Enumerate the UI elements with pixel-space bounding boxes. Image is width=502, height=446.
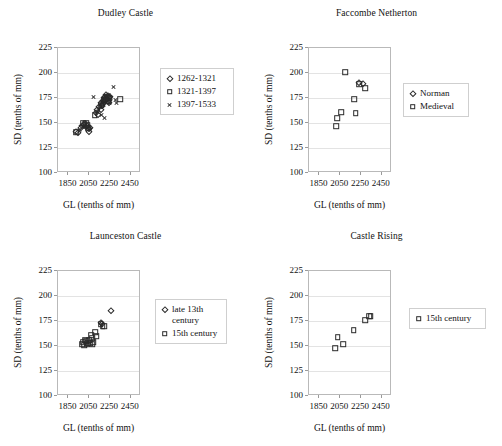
gridline — [58, 321, 139, 322]
data-point — [85, 125, 93, 133]
data-point — [351, 327, 357, 333]
x-axis-title: GL (tenths of mm) — [27, 200, 170, 210]
data-point — [99, 100, 107, 108]
data-point — [87, 340, 93, 346]
data-point — [106, 99, 114, 107]
gridline — [309, 148, 390, 149]
data-point — [101, 103, 106, 108]
x-axis-title: GL (tenths of mm) — [27, 423, 170, 433]
data-point — [101, 323, 107, 329]
data-point — [107, 101, 112, 106]
y-axis-tick-label: 225 — [39, 266, 53, 275]
y-axis-tick-label: 125 — [290, 366, 304, 375]
gridline — [309, 346, 390, 347]
data-point — [100, 101, 105, 106]
square-marker-icon — [414, 313, 423, 324]
data-point — [80, 125, 85, 130]
legend-item-label: late 13th century — [172, 304, 203, 326]
legend-item[interactable]: 15th century — [160, 328, 221, 339]
data-point — [334, 115, 340, 121]
chart-title: Faccombe Netherton — [251, 8, 502, 18]
data-point — [74, 129, 80, 135]
data-point — [98, 102, 104, 108]
y-axis-tick-label: 125 — [39, 366, 53, 375]
y-axis-tick-mark — [54, 295, 57, 296]
data-point — [82, 123, 90, 131]
y-axis-tick-mark — [305, 147, 308, 148]
y-axis-tick-label: 125 — [39, 143, 53, 152]
y-axis-tick-mark — [305, 345, 308, 346]
y-axis-tick-mark — [305, 295, 308, 296]
chart-legend: 15th century — [409, 308, 486, 329]
y-axis-tick-label: 150 — [39, 118, 53, 127]
diamond-marker-icon — [160, 304, 169, 315]
data-point — [93, 106, 101, 114]
gridline — [309, 296, 390, 297]
data-point — [98, 102, 106, 110]
x-axis-tick-mark — [318, 172, 319, 175]
y-axis-tick-label: 225 — [39, 43, 53, 52]
diamond-marker-icon — [408, 88, 417, 99]
legend-item-label: 1397-1533 — [177, 99, 216, 110]
legend-item-label: 1321-1397 — [177, 86, 216, 97]
data-point — [111, 85, 116, 90]
data-point — [106, 93, 111, 98]
scatter-plot-figure: Dudley Castle100125150175200225185020502… — [0, 0, 502, 446]
y-axis-tick-mark — [54, 72, 57, 73]
chart-legend: 1262-13211321-13971397-1533 — [160, 68, 234, 115]
data-point — [92, 112, 98, 118]
data-point — [335, 334, 341, 340]
chart-legend: NormanMedieval — [403, 83, 469, 117]
data-point — [89, 332, 95, 338]
y-axis-tick-label: 150 — [290, 118, 304, 127]
legend-item[interactable]: Medieval — [408, 101, 463, 112]
legend-item-label: Norman — [420, 88, 450, 99]
data-point — [85, 124, 90, 129]
data-point — [77, 124, 85, 132]
data-point — [100, 323, 106, 329]
y-axis-tick-label: 225 — [290, 266, 304, 275]
x-axis-tick-mark — [88, 395, 89, 398]
y-axis-tick-label: 150 — [39, 341, 53, 350]
y-axis-title: SD (tenths of mm) — [13, 47, 23, 172]
data-point — [339, 109, 345, 115]
x-axis-title: GL (tenths of mm) — [278, 200, 421, 210]
gridline — [309, 321, 390, 322]
y-axis-tick-mark — [305, 370, 308, 371]
gridline — [58, 296, 139, 297]
x-axis-tick-label: 2450 — [366, 179, 396, 188]
gridline — [309, 73, 390, 74]
y-axis-tick-label: 175 — [290, 316, 304, 325]
legend-item[interactable]: 15th century — [414, 313, 480, 324]
y-axis-tick-label: 125 — [290, 143, 304, 152]
y-axis-tick-mark — [305, 395, 308, 396]
data-point — [105, 98, 111, 104]
y-axis-tick-mark — [54, 395, 57, 396]
legend-item[interactable]: 1262-1321 — [165, 73, 228, 84]
y-axis-tick-label: 200 — [39, 68, 53, 77]
chart-title: Castle Rising — [251, 231, 502, 241]
y-axis-tick-label: 200 — [39, 291, 53, 300]
data-point — [93, 329, 99, 335]
legend-item[interactable]: 1321-1397 — [165, 86, 228, 97]
legend-item[interactable]: 1397-1533 — [165, 99, 228, 110]
plot-area — [308, 270, 391, 395]
x-axis-tick-mark — [88, 172, 89, 175]
legend-item[interactable]: Norman — [408, 88, 463, 99]
data-point — [85, 128, 93, 136]
y-axis-tick-mark — [305, 97, 308, 98]
diamond-marker-icon — [165, 73, 174, 84]
data-point — [84, 340, 90, 346]
y-axis-tick-label: 200 — [290, 68, 304, 77]
legend-item-label: Medieval — [420, 101, 454, 112]
legend-item[interactable]: late 13th century — [160, 304, 221, 326]
data-point — [101, 93, 109, 101]
data-point — [102, 116, 107, 121]
y-axis-tick-label: 100 — [290, 168, 304, 177]
data-point — [86, 124, 94, 132]
data-point — [366, 313, 372, 319]
gridline — [58, 73, 139, 74]
x-axis-tick-mark — [381, 172, 382, 175]
y-axis-title: SD (tenths of mm) — [13, 270, 23, 395]
data-point — [92, 109, 100, 117]
